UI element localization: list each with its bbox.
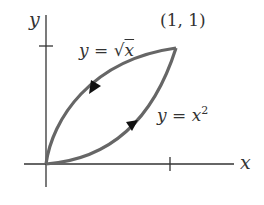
square-eq-lhs: y = — [157, 105, 192, 125]
point-label: (1, 1) — [160, 10, 206, 30]
sqrt-curve-label: y = √x — [79, 40, 134, 60]
sqrt-eq-var: x — [125, 40, 135, 60]
square-eq-var: x — [192, 105, 202, 125]
y-axis-label: y — [29, 8, 40, 30]
x-axis-label: x — [240, 151, 251, 173]
radical-sign: √ — [114, 40, 125, 60]
sqrt-eq-lhs: y = — [79, 40, 114, 60]
square-eq-exponent: 2 — [201, 104, 208, 117]
square-curve-label: y = x2 — [157, 104, 208, 125]
diagram-canvas — [0, 0, 264, 205]
